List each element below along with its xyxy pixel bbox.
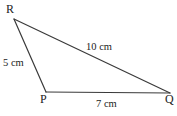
- side-label-pq: 7 cm: [96, 98, 117, 109]
- side-rp-line: [14, 19, 46, 92]
- vertex-label-r: R: [6, 3, 14, 15]
- triangle-shape: [0, 0, 177, 116]
- side-rq-line: [14, 19, 170, 93]
- vertex-label-p: P: [40, 93, 47, 105]
- side-label-rp: 5 cm: [3, 57, 24, 68]
- side-pq-line: [46, 92, 170, 93]
- triangle-figure: R P Q 10 cm 5 cm 7 cm: [0, 0, 177, 116]
- vertex-label-q: Q: [165, 93, 174, 105]
- side-label-rq: 10 cm: [86, 41, 112, 52]
